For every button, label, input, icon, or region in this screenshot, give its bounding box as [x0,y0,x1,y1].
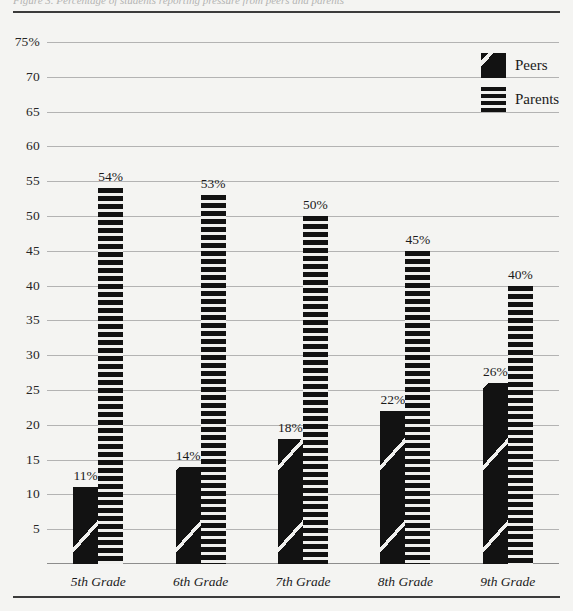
legend-swatch-parents-icon [481,87,506,112]
bar-value-label: 22% [381,392,406,408]
y-tick-label: 55 [26,173,40,189]
legend-item-peers[interactable]: Peers [481,50,559,80]
bar-value-label: 50% [303,197,328,213]
y-tick-label: 30 [26,347,40,363]
x-label-8th-grade: 8th Grade [378,574,433,590]
bar-value-label: 40% [508,267,533,283]
x-label-7th-grade: 7th Grade [275,574,330,590]
bar-parents-5th-grade[interactable]: 54% [98,188,123,564]
y-tick-label: 70 [26,69,40,85]
bar-group: 11%54% [47,42,149,564]
legend-swatch-peers-icon [481,53,506,78]
x-label-9th-grade: 9th Grade [480,574,535,590]
bar-value-label: 18% [278,420,303,436]
y-tick-label: 75% [15,34,40,50]
bar-value-label: 45% [406,232,431,248]
bar-value-label: 26% [483,364,508,380]
x-label-6th-grade: 6th Grade [173,574,228,590]
bar-parents-8th-grade[interactable]: 45% [405,251,430,564]
legend-label-parents: Parents [515,91,559,108]
bar-value-label: 54% [98,169,123,185]
y-tick-label: 25 [26,382,40,398]
bar-group: 26%40% [457,42,559,564]
y-tick-label: 65 [26,104,40,120]
bar-group: 18%50% [252,42,354,564]
y-tick-label: 35 [26,312,40,328]
bar-group: 14%53% [149,42,251,564]
plot-area: 75%706560555045403530252015105 11%54%14%… [47,42,559,564]
figure-caption-cutoff: Figure 3. Percentage of students reporti… [13,0,560,8]
bar-peers-6th-grade[interactable]: 14% [176,467,201,564]
x-label-5th-grade: 5th Grade [71,574,126,590]
top-rule [13,11,560,13]
bar-group: 22%45% [354,42,456,564]
bar-peers-8th-grade[interactable]: 22% [380,411,405,564]
y-tick-label: 45 [26,243,40,259]
legend: Peers Parents [481,50,559,118]
bar-parents-7th-grade[interactable]: 50% [303,216,328,564]
legend-item-parents[interactable]: Parents [481,84,559,114]
bar-value-label: 11% [74,468,98,484]
y-tick-label: 50 [26,208,40,224]
bar-peers-7th-grade[interactable]: 18% [278,439,303,564]
bar-value-label: 53% [201,176,226,192]
y-tick-label: 20 [26,417,40,433]
bar-value-label: 14% [176,448,201,464]
bar-peers-9th-grade[interactable]: 26% [483,383,508,564]
y-tick-label: 5 [33,521,40,537]
bar-peers-5th-grade[interactable]: 11% [73,487,98,564]
bottom-rule [13,596,560,598]
y-tick-label: 40 [26,278,40,294]
bar-parents-9th-grade[interactable]: 40% [508,286,533,564]
y-tick-label: 10 [26,486,40,502]
legend-label-peers: Peers [515,57,548,74]
figure-chart: Figure 3. Percentage of students reporti… [0,0,573,611]
y-tick-label: 15 [26,452,40,468]
bar-parents-6th-grade[interactable]: 53% [201,195,226,564]
y-tick-label: 60 [26,138,40,154]
